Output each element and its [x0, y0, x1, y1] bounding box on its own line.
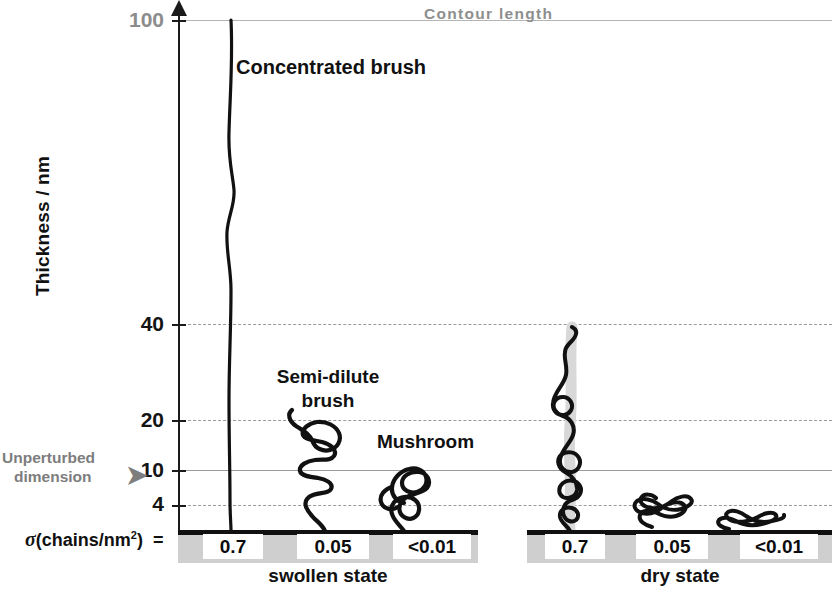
sigma-value-swollen-3: <0.01 [393, 534, 471, 559]
sigma-value-swollen-1: 0.7 [203, 534, 263, 559]
caption-dry-state: dry state [570, 565, 790, 587]
sigma-equals-sign: = [153, 530, 164, 550]
sigma-value-swollen-2: 0.05 [297, 534, 369, 559]
chain-dry-semi-dilute-brush [635, 496, 692, 527]
chain-dry-mushroom [718, 511, 784, 529]
sigma-value-dry-3: <0.01 [740, 534, 818, 559]
caption-swollen-state: swollen state [208, 565, 448, 587]
figure-canvas: 100 40 20 10 4 Thickness / nm Contour le… [0, 0, 832, 601]
sigma-value-dry-2: 0.05 [636, 534, 708, 559]
sigma-units-close: ) [137, 530, 143, 550]
sigma-value-dry-1: 0.7 [545, 534, 605, 559]
polymer-chains-layer [0, 0, 832, 601]
chain-swollen-mushroom [391, 468, 429, 531]
chain-swollen-semi-dilute-brush [300, 422, 340, 531]
sigma-units-open: (chains/nm [36, 530, 131, 550]
sigma-symbol: σ [25, 528, 36, 550]
sigma-axis-label: σ(chains/nm2) = [25, 528, 163, 551]
chain-swollen-concentrated-brush [227, 20, 234, 531]
